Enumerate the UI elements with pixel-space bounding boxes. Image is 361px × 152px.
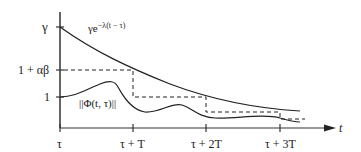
label-tau-plus-3T: τ + 3T (265, 137, 297, 151)
bound-diagram: γ 1 + αβ 1 τ τ + T τ + 2T τ + 3T t γe−λ(… (0, 0, 361, 152)
staircase-bound-dashed (64, 70, 305, 119)
label-exponential-base: γe (87, 22, 98, 34)
label-gamma: γ (41, 19, 48, 34)
label-tau-plus-2T: τ + 2T (191, 137, 223, 151)
label-tau-plus-T: τ + T (120, 137, 146, 151)
label-one-plus-alpha-beta: 1 + αβ (18, 63, 49, 77)
label-tau: τ (57, 137, 62, 151)
axes (56, 12, 336, 132)
label-one: 1 (44, 90, 50, 104)
label-norm-phi: ||Φ(t, τ)|| (79, 97, 116, 110)
label-t-axis: t (339, 121, 343, 135)
label-exponential-exponent: −λ(t − τ) (98, 21, 126, 30)
x-axis-arrow-icon (324, 125, 336, 132)
label-exponential: γe−λ(t − τ) (87, 21, 126, 34)
